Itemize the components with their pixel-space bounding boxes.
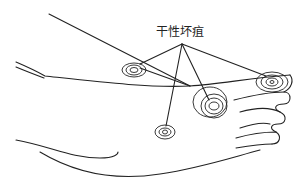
midfoot-lesion (193, 87, 227, 118)
sole-lesion (155, 125, 175, 139)
ankle-lesion (122, 63, 146, 77)
big-toe-lesion (256, 72, 288, 92)
foot-gangrene-figure: 干性坏疽 (0, 0, 306, 192)
figure-label: 干性坏疽 (156, 22, 204, 39)
foot-drawing (0, 0, 306, 192)
